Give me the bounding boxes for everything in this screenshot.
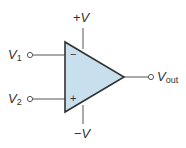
input-v2-label: V2 xyxy=(8,92,22,107)
output-subscript: out xyxy=(166,75,179,85)
positive-supply-label: +V xyxy=(73,11,89,24)
inverting-input-terminal xyxy=(27,52,32,57)
positive-supply-symbol: V xyxy=(81,10,90,25)
input-v1-label: V1 xyxy=(8,48,22,63)
non-inverting-pin-sign: + xyxy=(70,93,76,104)
negative-supply-symbol: V xyxy=(82,126,91,141)
negative-supply-label: −V xyxy=(74,127,90,140)
non-inverting-input-terminal xyxy=(27,96,32,101)
negative-supply-sign: − xyxy=(74,126,82,141)
output-terminal xyxy=(148,74,153,79)
output-label: Vout xyxy=(157,70,178,85)
output-symbol: V xyxy=(157,69,166,84)
input-v1-subscript: 1 xyxy=(17,53,22,63)
input-v2-subscript: 2 xyxy=(17,97,22,107)
positive-supply-sign: + xyxy=(73,10,81,25)
input-v2-symbol: V xyxy=(8,91,17,106)
op-amp-diagram: +V −V V1 V2 Vout − + xyxy=(0,0,186,148)
input-v1-symbol: V xyxy=(8,47,17,62)
inverting-pin-sign: − xyxy=(70,49,76,60)
